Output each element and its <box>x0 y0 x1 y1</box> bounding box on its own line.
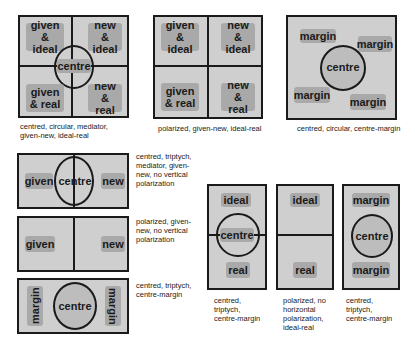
label-margin: margin <box>350 94 386 110</box>
label-ideal: ideal <box>290 193 320 207</box>
label-margin: margin <box>358 36 392 52</box>
caption-d3: centred, circular, centre-margin <box>297 124 415 133</box>
diagram-centred-triptych-mediator: given centre new <box>17 153 129 209</box>
label-new: new <box>101 236 125 252</box>
label-new: new <box>101 173 125 189</box>
label-ideal: ideal <box>221 193 251 207</box>
label-given-real: given & real <box>26 84 64 112</box>
diagram-centred-circular-centre-margin: margin margin centre margin margin <box>286 15 397 120</box>
label-centre: centre <box>220 228 254 242</box>
caption-d7: centred, triptych, centre-margin <box>214 296 264 323</box>
caption-d8: polarized, no horizontal polarization, i… <box>283 296 343 332</box>
diagram-centred-triptych-centre-margin-horizontal: margin centre margin <box>17 278 129 334</box>
diagram-centred-circular-mediator: given & ideal new & ideal centre given &… <box>18 15 129 118</box>
label-given-ideal: given & ideal <box>26 23 64 51</box>
label-given-real: given & real <box>161 83 199 111</box>
caption-d2: polarized, given-new, ideal-real <box>158 124 288 133</box>
caption-d1: centred, circular, mediator, given-new, … <box>20 122 130 140</box>
label-given-ideal: given & ideal <box>161 23 199 51</box>
label-margin: margin <box>105 286 121 326</box>
label-new-ideal: new & ideal <box>221 23 255 51</box>
label-given: given <box>25 173 53 189</box>
label-real: real <box>226 262 250 278</box>
diagram-polarized-given-new: given new <box>17 216 129 272</box>
label-margin: margin <box>352 262 390 278</box>
label-centre: centre <box>57 59 91 73</box>
label-new-ideal: new & ideal <box>88 23 122 51</box>
label-centre: centre <box>326 60 360 74</box>
horizontal-divider <box>155 65 261 67</box>
vertical-divider <box>73 218 75 270</box>
label-real: real <box>293 262 317 278</box>
label-margin: margin <box>300 29 336 43</box>
label-centre: centre <box>59 173 91 189</box>
diagram-polarized-given-new-ideal-real: given & ideal new & ideal given & real n… <box>153 15 263 119</box>
horizontal-divider <box>278 234 332 236</box>
label-margin: margin <box>27 286 43 326</box>
label-margin: margin <box>352 193 390 207</box>
caption-d6: centred, triptych, centre-margin <box>136 281 206 299</box>
vertical-divider <box>207 17 209 117</box>
label-centre: centre <box>354 229 390 243</box>
label-new-real: new & real <box>221 83 255 111</box>
label-new-real: new & real <box>88 84 122 112</box>
diagram-vertical-centred-triptych-centre-margin: margin centre margin <box>342 184 400 290</box>
caption-d5: polarized, given-new, no vertical polari… <box>136 217 196 244</box>
label-margin: margin <box>294 87 330 103</box>
caption-d4: centred, triptych, mediator, given-new, … <box>136 152 196 188</box>
caption-d9: centred, triptych, centre-margin <box>346 296 396 323</box>
label-centre: centre <box>57 298 93 314</box>
diagram-vertical-polarized-ideal-real: ideal real <box>276 184 334 290</box>
label-given: given <box>25 236 55 252</box>
diagram-vertical-centred-triptych: ideal centre real <box>207 184 267 290</box>
